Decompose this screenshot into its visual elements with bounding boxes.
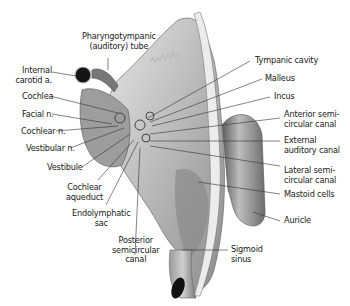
label-vestibule: Vestibule: [47, 163, 83, 173]
label-line: auditory canal: [284, 146, 340, 156]
label-lateral-semicircular-canal: Lateral semi- circular canal: [284, 166, 336, 185]
label-sigmoid-sinus: Sigmoid sinus: [231, 245, 263, 264]
label-mastoid-cells: Mastoid cells: [284, 190, 334, 200]
label-cochlea: Cochlea: [22, 92, 53, 102]
label-line: (auditory) tube: [82, 42, 156, 52]
label-posterior-semicircular-canal: Posterior semicircular canal: [112, 236, 159, 265]
label-pharyngotympanic-tube: Pharyngotympanic (auditory) tube: [82, 32, 156, 51]
label-facial-nerve: Facial n.: [22, 110, 54, 120]
label-line: sinus: [231, 255, 263, 265]
label-cochlear-nerve: Cochlear n.: [21, 127, 65, 137]
label-line: circular canal: [284, 176, 336, 186]
label-endolymphatic-sac: Endolymphatic sac: [72, 209, 130, 228]
label-vestibular-nerve: Vestibular n.: [26, 144, 75, 154]
label-line: circular canal: [284, 120, 339, 130]
label-external-auditory-canal: External auditory canal: [284, 136, 340, 155]
label-internal-carotid: Internal carotid a.: [14, 66, 52, 85]
label-line: canal: [112, 255, 159, 265]
auricle-shape: [222, 115, 265, 226]
carotid-artery: [75, 67, 91, 83]
label-auricle: Auricle: [284, 216, 311, 226]
label-line: carotid a.: [14, 76, 52, 86]
label-tympanic-cavity: Tympanic cavity: [255, 56, 318, 66]
label-incus: Incus: [274, 92, 295, 102]
label-malleus: Malleus: [265, 74, 295, 84]
label-line: sac: [72, 219, 130, 229]
label-line: aqueduct: [66, 193, 103, 203]
label-cochlear-aqueduct: Cochlear aqueduct: [66, 183, 103, 202]
label-anterior-semicircular-canal: Anterior semi- circular canal: [284, 110, 339, 129]
auditory-tube: [92, 69, 118, 92]
